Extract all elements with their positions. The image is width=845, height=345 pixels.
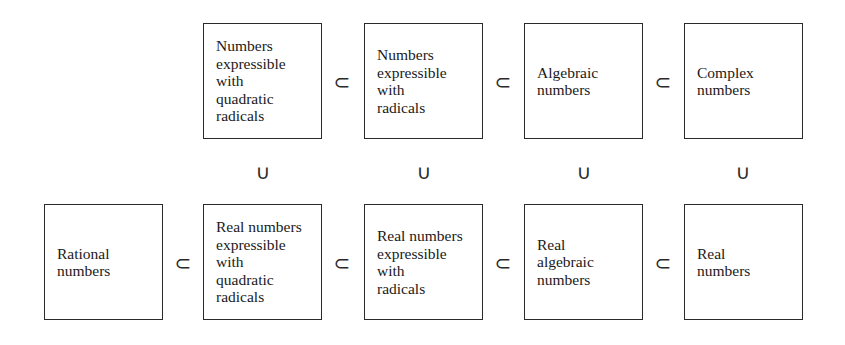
box-radicals: Numbers expressible with radicals	[364, 23, 483, 139]
subset-symbol: ⊂	[653, 253, 673, 273]
subset-symbol: ⊂	[332, 72, 352, 92]
box-label: Real numbers	[697, 245, 750, 280]
union-symbol: ∪	[414, 162, 434, 182]
box-real-numbers: Real numbers	[684, 204, 803, 320]
box-label: Rational numbers	[57, 245, 110, 280]
box-real-quadratic-radicals: Real numbers expressible with quadratic …	[203, 204, 322, 320]
box-real-radicals: Real numbers expressible with radicals	[364, 204, 483, 320]
box-label: Real algebraic numbers	[537, 236, 594, 289]
box-rational-numbers: Rational numbers	[44, 204, 163, 320]
box-label: Algebraic numbers	[537, 64, 598, 99]
union-symbol: ∪	[733, 162, 753, 182]
subset-symbol: ⊂	[653, 72, 673, 92]
box-quadratic-radicals: Numbers expressible with quadratic radic…	[203, 23, 322, 139]
box-label: Complex numbers	[697, 64, 754, 99]
box-label: Real numbers expressible with radicals	[377, 227, 463, 297]
box-label: Numbers expressible with quadratic radic…	[216, 37, 286, 125]
union-symbol: ∪	[253, 162, 273, 182]
subset-symbol: ⊂	[493, 72, 513, 92]
box-label: Numbers expressible with radicals	[377, 46, 447, 116]
box-real-algebraic-numbers: Real algebraic numbers	[524, 204, 643, 320]
subset-symbol: ⊂	[173, 253, 193, 273]
box-algebraic-numbers: Algebraic numbers	[524, 23, 643, 139]
union-symbol: ∪	[574, 162, 594, 182]
subset-symbol: ⊂	[493, 253, 513, 273]
box-label: Real numbers expressible with quadratic …	[216, 218, 302, 306]
box-complex-numbers: Complex numbers	[684, 23, 803, 139]
subset-symbol: ⊂	[332, 253, 352, 273]
